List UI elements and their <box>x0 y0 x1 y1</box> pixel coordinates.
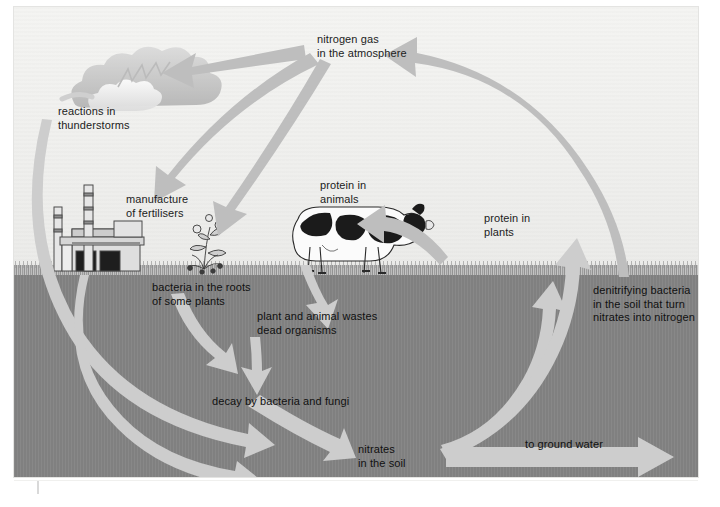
label-manufacture-of-fertilisers: manufacture of fertilisers <box>126 193 188 220</box>
label-nitrates-in-the-soil: nitrates in the soil <box>358 443 406 470</box>
label-denitrifying-bacteria: denitrifying bacteria in the soil that t… <box>593 284 695 325</box>
label-protein-in-animals: protein in animals <box>320 179 366 206</box>
figure-page: nitrogen gas in the atmosphere reactions… <box>0 0 720 507</box>
flow-arrow-layer <box>14 7 698 477</box>
arrow-wastes-to-decay <box>241 337 272 395</box>
label-to-ground-water: to ground water <box>525 438 603 452</box>
nitrogen-cycle-figure: nitrogen gas in the atmosphere reactions… <box>14 7 698 477</box>
label-decay-by-bacteria-and-fungi: decay by bacteria and fungi <box>212 395 349 409</box>
label-reactions-in-thunderstorms: reactions in thunderstorms <box>58 105 130 132</box>
arrow-plants-to-animals <box>357 205 448 265</box>
label-plant-and-animal-wastes: plant and animal wastes dead organisms <box>257 310 377 337</box>
arrow-nitrates-to-plants <box>440 238 591 459</box>
label-nitrogen-gas: nitrogen gas in the atmosphere <box>317 33 407 60</box>
label-bacteria-in-roots: bacteria in the roots of some plants <box>152 281 251 308</box>
figure-baseline <box>14 480 698 481</box>
figure-tick-mark <box>37 481 39 494</box>
label-protein-in-plants: protein in plants <box>484 212 530 239</box>
